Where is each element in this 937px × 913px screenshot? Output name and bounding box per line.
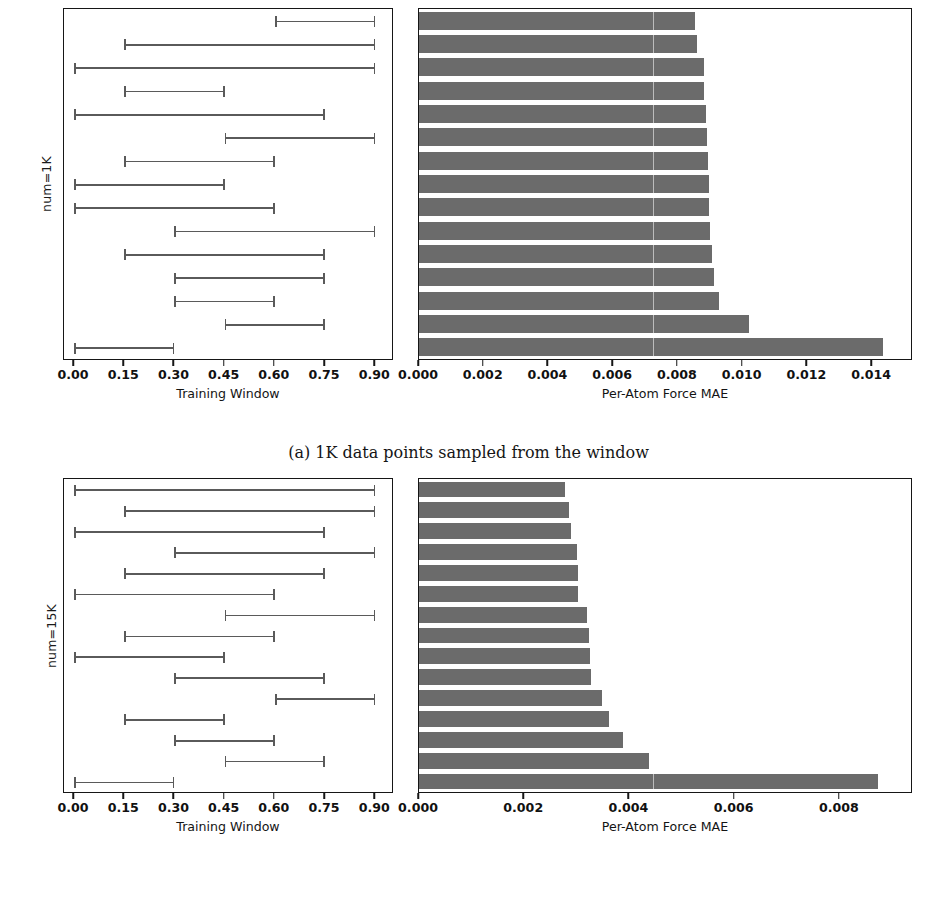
interval-line	[275, 698, 375, 700]
force-mae-bar	[419, 268, 714, 286]
axis-tick	[733, 793, 735, 799]
force-mae-bar	[419, 315, 749, 333]
force-mae-bar	[419, 12, 695, 30]
interval-cap-left	[74, 777, 76, 788]
axis-tick	[323, 360, 325, 366]
training-window-interval	[275, 698, 375, 700]
interval-cap-left	[225, 756, 227, 767]
interval-line	[124, 573, 325, 575]
axis-tick	[870, 360, 872, 366]
interval-cap-left	[124, 156, 126, 167]
training-window-interval	[174, 277, 325, 279]
x-axis-title-training-window-1k: Training Window	[63, 386, 393, 401]
training-window-interval	[225, 761, 325, 763]
axis-tick	[122, 793, 124, 799]
interval-cap-right	[323, 273, 325, 284]
interval-line	[174, 740, 274, 742]
training-window-interval	[74, 782, 174, 784]
interval-line	[225, 324, 325, 326]
interval-cap-right	[323, 673, 325, 684]
axis-tick	[676, 360, 678, 366]
axis-tick	[72, 360, 74, 366]
force-mae-bar	[419, 292, 719, 310]
interval-cap-right	[374, 547, 376, 558]
interval-line	[124, 161, 275, 163]
interval-cap-right	[323, 319, 325, 330]
axis-tick-label: 0.012	[786, 367, 826, 382]
training-window-panel-1k: num=1K Training Window 0.000.150.300.450…	[63, 8, 393, 360]
scan-artifact-line	[653, 479, 654, 792]
training-window-interval	[174, 677, 325, 679]
axis-tick	[173, 793, 175, 799]
interval-cap-right	[273, 156, 275, 167]
interval-cap-left	[275, 694, 277, 705]
interval-cap-right	[374, 63, 376, 74]
training-window-interval	[124, 91, 224, 93]
interval-cap-right	[223, 86, 225, 97]
axis-tick-label: 0.008	[657, 367, 697, 382]
axis-tick	[547, 360, 549, 366]
interval-line	[174, 231, 375, 233]
interval-line	[74, 184, 225, 186]
interval-cap-left	[275, 16, 277, 27]
axis-tick-label: 0.60	[258, 800, 289, 815]
training-window-interval	[225, 137, 376, 139]
interval-cap-left	[124, 39, 126, 50]
axis-tick	[122, 360, 124, 366]
force-mae-bar	[419, 245, 712, 263]
axis-tick-label: 0.006	[714, 800, 754, 815]
training-window-interval	[275, 21, 375, 23]
interval-cap-left	[174, 273, 176, 284]
force-mae-bar	[419, 607, 587, 623]
force-mae-bar	[419, 711, 609, 727]
force-mae-panel-15k: Per-Atom Force MAE 0.0000.0020.0040.0060…	[418, 478, 912, 793]
interval-cap-right	[374, 39, 376, 50]
interval-cap-right	[374, 485, 376, 496]
interval-cap-left	[74, 203, 76, 214]
x-axis-training-window-1k: Training Window 0.000.150.300.450.600.75…	[63, 360, 393, 406]
training-window-interval	[174, 231, 375, 233]
axis-tick	[72, 793, 74, 799]
axis-tick	[417, 793, 419, 799]
interval-cap-right	[273, 296, 275, 307]
force-mae-bar	[419, 58, 704, 76]
interval-cap-right	[323, 756, 325, 767]
force-mae-bar	[419, 35, 697, 53]
interval-line	[174, 277, 325, 279]
training-window-interval	[225, 324, 325, 326]
interval-line	[74, 207, 275, 209]
training-window-interval	[174, 740, 274, 742]
axis-tick	[482, 360, 484, 366]
x-axis-force-mae-15k: Per-Atom Force MAE 0.0000.0020.0040.0060…	[418, 793, 912, 839]
axis-tick-label: 0.45	[208, 367, 239, 382]
axis-tick-label: 0.008	[819, 800, 859, 815]
interval-cap-left	[124, 714, 126, 725]
axis-tick-label: 0.000	[398, 800, 438, 815]
interval-cap-left	[124, 568, 126, 579]
axis-tick-label: 0.00	[57, 800, 88, 815]
axis-tick-label: 0.45	[208, 800, 239, 815]
interval-cap-right	[374, 506, 376, 517]
x-axis-title-force-mae-1k: Per-Atom Force MAE	[418, 386, 912, 401]
interval-cap-left	[225, 133, 227, 144]
interval-line	[74, 594, 275, 596]
force-mae-bar	[419, 732, 623, 748]
axis-tick	[741, 360, 743, 366]
interval-line	[174, 677, 325, 679]
interval-cap-left	[124, 631, 126, 642]
force-mae-bar	[419, 565, 578, 581]
axis-tick	[628, 793, 630, 799]
axis-tick-label: 0.000	[398, 367, 438, 382]
interval-cap-right	[323, 568, 325, 579]
interval-line	[124, 44, 375, 46]
training-window-interval	[174, 552, 375, 554]
axis-tick	[417, 360, 419, 366]
interval-cap-right	[374, 16, 376, 27]
training-window-interval	[74, 114, 325, 116]
interval-cap-right	[323, 109, 325, 120]
figure-root: num=1K Training Window 0.000.150.300.450…	[0, 0, 937, 913]
axis-tick-label: 0.002	[463, 367, 503, 382]
interval-cap-left	[174, 673, 176, 684]
force-mae-bar	[419, 482, 565, 498]
force-mae-bar	[419, 82, 704, 100]
